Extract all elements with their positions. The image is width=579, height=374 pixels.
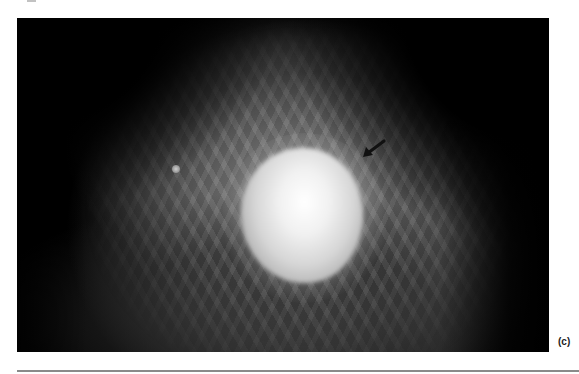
arrow-icon xyxy=(361,138,387,160)
panel-label: (c) xyxy=(558,336,570,347)
cropped-content-fragment xyxy=(27,0,36,2)
mammogram-image xyxy=(17,18,549,352)
small-nodule xyxy=(172,165,180,173)
figure-divider-rule xyxy=(17,370,579,372)
central-mass xyxy=(241,148,363,283)
